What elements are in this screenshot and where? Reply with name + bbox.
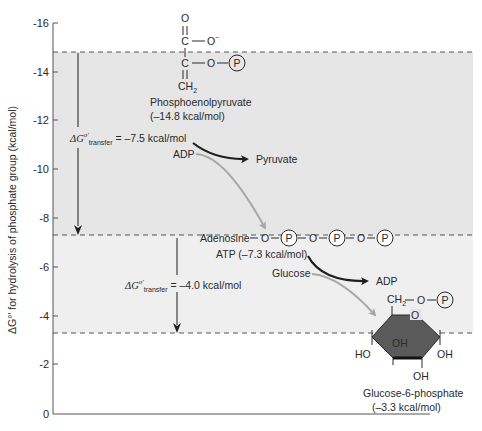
y-axis-label: ΔG°′ for hydrolysis of phosphate group (… <box>6 106 18 334</box>
svg-text:P: P <box>381 232 388 244</box>
svg-text:OH: OH <box>437 348 453 360</box>
svg-text:O: O <box>207 35 215 47</box>
svg-text:P: P <box>333 232 340 244</box>
reaction2-output: ADP <box>376 275 398 287</box>
svg-text:O: O <box>357 232 365 244</box>
atp-name: ATP (–7.3 kcal/mol) <box>216 248 307 260</box>
svg-text:P: P <box>285 232 292 244</box>
svg-text:O: O <box>207 57 215 69</box>
g6p-name: Glucose-6-phosphate <box>363 387 464 399</box>
svg-text:O: O <box>411 309 419 321</box>
svg-text:0: 0 <box>43 408 49 420</box>
y-tick-labels: -16 -14 -12 -10 -8 -6 -4 -2 0 <box>33 17 49 420</box>
svg-text:-10: -10 <box>33 163 49 175</box>
svg-text:C: C <box>181 57 189 69</box>
svg-text:-4: -4 <box>39 310 49 322</box>
reaction1-output: Pyruvate <box>256 153 298 165</box>
svg-text:-12: -12 <box>33 114 49 126</box>
energy-diagram: -16 -14 -12 -10 -8 -6 -4 -2 0 ΔG°′ for h… <box>0 0 482 431</box>
svg-text:O: O <box>417 294 425 306</box>
svg-text:C: C <box>181 35 189 47</box>
svg-text:−: − <box>215 34 219 41</box>
svg-text:OH: OH <box>392 337 408 349</box>
svg-text:-2: -2 <box>39 358 49 370</box>
svg-text:OH: OH <box>413 370 429 382</box>
svg-text:-16: -16 <box>33 17 49 29</box>
reaction2-input: Glucose <box>272 267 311 279</box>
svg-text:Adenosine: Adenosine <box>200 232 250 244</box>
svg-text:P: P <box>441 294 448 306</box>
svg-text:-6: -6 <box>39 261 49 273</box>
svg-text:P: P <box>233 57 240 69</box>
svg-text:-14: -14 <box>33 66 49 78</box>
svg-text:O: O <box>309 232 317 244</box>
svg-text:HO: HO <box>355 348 371 360</box>
svg-text:O: O <box>261 232 269 244</box>
svg-text:O: O <box>181 12 189 24</box>
reaction1-input: ADP <box>173 148 195 160</box>
g6p-energy: (–3.3 kcal/mol) <box>372 401 441 413</box>
pep-energy: (–14.8 kcal/mol) <box>150 110 225 122</box>
pep-name: Phosphoenolpyruvate <box>150 96 252 108</box>
svg-text:-8: -8 <box>39 212 49 224</box>
